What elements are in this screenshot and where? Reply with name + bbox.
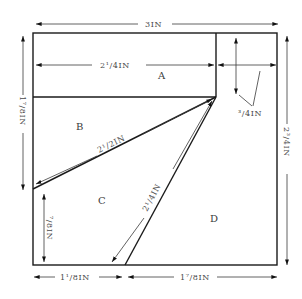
svg-text:2¹/4IN: 2¹/4IN (141, 182, 163, 213)
svg-text:1⁷/8IN: 1⁷/8IN (18, 96, 27, 126)
svg-text:³/4IN: ³/4IN (238, 109, 262, 118)
cut-steep-diagonal (125, 97, 216, 265)
svg-text:⁷/8IN: ⁷/8IN (45, 216, 54, 240)
dimension-left-lower-height: ⁷/8IN (44, 194, 54, 262)
svg-text:2¹/4IN: 2¹/4IN (100, 61, 130, 70)
dimension-right-height: 2³/4IN (282, 36, 291, 265)
outer-square (33, 33, 277, 265)
svg-text:1¹/8IN: 1¹/8IN (60, 273, 90, 282)
svg-text:1⁷/8IN: 1⁷/8IN (180, 273, 210, 282)
cut-diagram: A B C D 3IN 2¹/4IN ³/4IN 1⁷/8IN 2³/4IN 2… (0, 0, 302, 299)
dimension-top-width: 3IN (36, 20, 278, 29)
dimension-bottom-left: 1¹/8IN (34, 273, 122, 282)
dimension-diagonal-steep: 2¹/4IN (112, 101, 212, 262)
region-d-label: D (210, 213, 218, 224)
svg-text:3IN: 3IN (145, 20, 162, 29)
svg-text:2³/4IN: 2³/4IN (282, 127, 291, 157)
dimension-bottom-right: 1⁷/8IN (128, 273, 277, 282)
dimension-left-height: 1⁷/8IN (18, 36, 27, 190)
shape-outlines (33, 33, 277, 265)
dimension-small-square: ³/4IN (218, 38, 276, 118)
region-b-label: B (76, 121, 83, 132)
dimension-region-a-width: 2¹/4IN (36, 61, 214, 70)
region-c-label: C (98, 195, 106, 206)
region-a-label: A (157, 70, 166, 81)
